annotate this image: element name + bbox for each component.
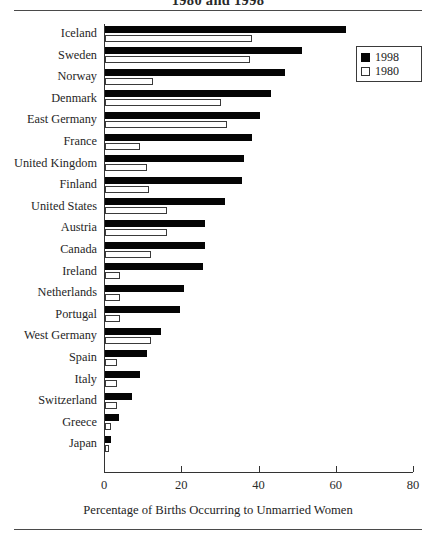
bar-1998 (105, 155, 244, 162)
bar-1998 (105, 47, 302, 54)
x-axis-tick (259, 466, 260, 472)
bar-row: Portugal (0, 305, 436, 327)
bar-1998 (105, 328, 161, 335)
category-label-canada: Canada (60, 242, 97, 256)
legend-item-1980: 1980 (361, 64, 417, 78)
bar-1998 (105, 414, 119, 421)
bar-1980 (105, 272, 120, 279)
bar-1980 (105, 294, 120, 301)
bar-1980 (105, 423, 111, 430)
bar-row: Japan (0, 434, 436, 456)
bar-1998 (105, 393, 132, 400)
bar-row: Finland (0, 175, 436, 197)
bar-1998 (105, 285, 184, 292)
bar-row: Canada (0, 240, 436, 262)
bar-1980 (105, 445, 109, 452)
x-axis-tick (181, 466, 182, 472)
legend-swatch-filled-icon (361, 53, 370, 62)
bar-1980 (105, 207, 167, 214)
bar-1998 (105, 198, 225, 205)
category-label-east-germany: East Germany (27, 112, 97, 126)
x-axis-tick-label: 20 (175, 478, 188, 493)
bar-1980 (105, 337, 151, 344)
category-label-sweden: Sweden (58, 48, 97, 62)
bar-row: United Kingdom (0, 154, 436, 176)
category-label-spain: Spain (69, 350, 97, 364)
bar-1980 (105, 99, 221, 106)
x-axis-title: Percentage of Births Occurring to Unmarr… (0, 503, 436, 518)
bar-1980 (105, 402, 117, 409)
bar-row: East Germany (0, 110, 436, 132)
bar-1998 (105, 371, 140, 378)
legend-label-1998: 1998 (375, 50, 399, 65)
bar-1998 (105, 134, 252, 141)
bar-1980 (105, 186, 149, 193)
page-title: 1980 and 1998 (172, 0, 265, 8)
bar-1998 (105, 306, 180, 313)
category-label-west-germany: West Germany (24, 328, 97, 342)
bar-row: Spain (0, 348, 436, 370)
bar-1980 (105, 35, 252, 42)
bar-1998 (105, 177, 242, 184)
bar-row: United States (0, 197, 436, 219)
title-divider (14, 10, 422, 11)
category-label-ireland: Ireland (62, 264, 97, 278)
legend-swatch-open-icon (361, 67, 370, 76)
bar-1980 (105, 380, 117, 387)
category-label-united-states: United States (31, 199, 97, 213)
bar-1998 (105, 90, 271, 97)
category-label-united-kingdom: United Kingdom (14, 156, 97, 170)
category-label-france: France (64, 134, 97, 148)
x-axis-tick-label: 0 (101, 478, 107, 493)
x-axis-tick-label: 40 (252, 478, 265, 493)
x-axis-tick (104, 466, 105, 472)
category-label-iceland: Iceland (61, 26, 97, 40)
category-label-portugal: Portugal (55, 307, 97, 321)
x-axis-line (104, 472, 413, 473)
bar-row: Switzerland (0, 391, 436, 413)
x-axis-tick-label: 80 (407, 478, 420, 493)
bar-row: Netherlands (0, 283, 436, 305)
bar-row: France (0, 132, 436, 154)
category-label-finland: Finland (59, 177, 97, 191)
bar-1980 (105, 121, 227, 128)
category-label-norway: Norway (57, 69, 97, 83)
footer-divider (14, 529, 422, 530)
x-axis-tick-label: 60 (330, 478, 343, 493)
bar-1998 (105, 242, 205, 249)
category-label-switzerland: Switzerland (38, 393, 97, 407)
bar-1998 (105, 436, 111, 443)
bar-1980 (105, 143, 140, 150)
bar-1998 (105, 112, 260, 119)
bar-row: Italy (0, 370, 436, 392)
legend-label-1980: 1980 (375, 64, 399, 79)
category-label-austria: Austria (61, 220, 97, 234)
bar-row: West Germany (0, 326, 436, 348)
bar-1998 (105, 69, 285, 76)
category-label-italy: Italy (74, 372, 97, 386)
bar-1980 (105, 251, 151, 258)
bar-1980 (105, 315, 120, 322)
bar-row: Denmark (0, 89, 436, 111)
bar-1998 (105, 263, 203, 270)
category-label-japan: Japan (69, 436, 97, 450)
category-label-greece: Greece (62, 415, 97, 429)
x-axis-tick (413, 466, 414, 472)
bar-1980 (105, 359, 117, 366)
x-axis-tick (336, 466, 337, 472)
bar-1980 (105, 78, 153, 85)
bar-1998 (105, 26, 346, 33)
bar-row: Greece (0, 413, 436, 435)
bar-row: Austria (0, 218, 436, 240)
bar-1980 (105, 56, 250, 63)
category-label-netherlands: Netherlands (38, 285, 97, 299)
chart-plot-area: 020406080 IcelandSwedenNorwayDenmarkEast… (0, 22, 436, 480)
legend-item-1998: 1998 (361, 50, 417, 64)
bar-1998 (105, 350, 147, 357)
bar-1980 (105, 164, 147, 171)
bar-row: Iceland (0, 24, 436, 46)
chart-legend: 1998 1980 (356, 46, 422, 82)
bar-1998 (105, 220, 205, 227)
bar-row: Ireland (0, 262, 436, 284)
bar-1980 (105, 229, 167, 236)
